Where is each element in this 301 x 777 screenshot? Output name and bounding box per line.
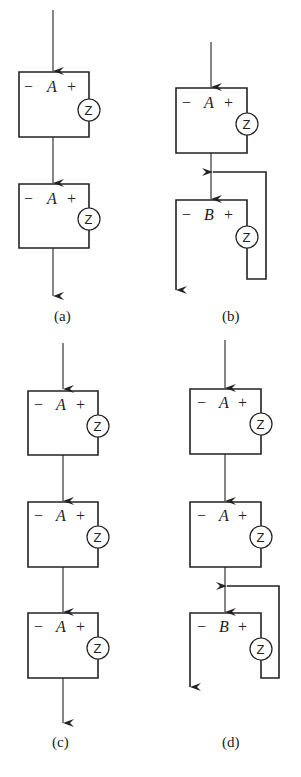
panel-a: − A + Z − A + Z (a) — [19, 10, 100, 325]
block-a2: − A + Z — [19, 184, 100, 248]
panel-b: − A + Z − B + Z (b) — [176, 42, 266, 325]
block-name: B — [219, 618, 229, 635]
block-d3: − B + Z — [190, 613, 272, 687]
minus-terminal: − — [182, 206, 191, 223]
panel-caption: (b) — [222, 308, 240, 325]
minus-terminal: − — [24, 190, 33, 207]
block-d2: − A + Z — [190, 502, 272, 567]
minus-terminal: − — [24, 78, 33, 95]
zener-label: Z — [94, 530, 102, 545]
panel-caption: (c) — [52, 734, 69, 751]
block-name: A — [55, 507, 66, 524]
block-name: A — [218, 507, 229, 524]
block-name: A — [218, 394, 229, 411]
plus-terminal: + — [224, 206, 233, 223]
zener-label: Z — [85, 212, 93, 227]
zener-label: Z — [257, 530, 265, 545]
panel-d: − A + Z − A + Z − B + Z (d) — [190, 340, 279, 751]
feedback-loop-arrow — [227, 586, 279, 678]
panel-caption: (a) — [54, 308, 71, 325]
minus-terminal: − — [197, 507, 206, 524]
zener-label: Z — [94, 641, 102, 656]
zener-label: Z — [85, 103, 93, 118]
plus-terminal: + — [224, 94, 233, 111]
minus-terminal: − — [34, 618, 43, 635]
plus-terminal: + — [76, 507, 85, 524]
panel-caption: (d) — [222, 734, 240, 751]
block-d1: − A + Z — [190, 389, 272, 454]
block-name: A — [55, 618, 66, 635]
minus-terminal: − — [197, 394, 206, 411]
feedback-loop-arrow — [213, 172, 266, 279]
plus-terminal: + — [238, 618, 247, 635]
block-c2: − A + Z — [28, 502, 109, 567]
plus-terminal: + — [238, 394, 247, 411]
block-b2: − B + Z — [176, 200, 258, 290]
plus-terminal: + — [238, 507, 247, 524]
minus-terminal: − — [182, 94, 191, 111]
block-name: A — [46, 190, 57, 207]
zener-label: Z — [94, 419, 102, 434]
zener-label: Z — [257, 642, 265, 657]
block-name: A — [203, 94, 214, 111]
block-c3: − A + Z — [28, 613, 109, 678]
block-name: A — [46, 78, 57, 95]
block-name: B — [204, 206, 214, 223]
plus-terminal: + — [76, 618, 85, 635]
block-name: A — [55, 396, 66, 413]
zener-label: Z — [243, 117, 251, 132]
block-a1: − A + Z — [19, 72, 100, 137]
plus-terminal: + — [67, 190, 76, 207]
plus-terminal: + — [67, 78, 76, 95]
minus-terminal: − — [34, 396, 43, 413]
panel-c: − A + Z − A + Z − A + Z (c) — [28, 343, 109, 751]
block-c1: − A + Z — [28, 391, 109, 455]
minus-terminal: − — [34, 507, 43, 524]
block-b1: − A + Z — [176, 88, 258, 153]
diagram-canvas: − A + Z − A + Z (a) − A + Z — [0, 0, 301, 777]
zener-label: Z — [243, 230, 251, 245]
zener-label: Z — [257, 417, 265, 432]
minus-terminal: − — [197, 618, 206, 635]
plus-terminal: + — [76, 396, 85, 413]
